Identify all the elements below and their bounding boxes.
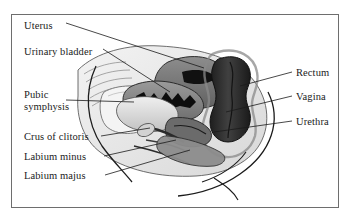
- label-labium-majus: Labium majus: [24, 170, 86, 182]
- rectum: [210, 57, 250, 142]
- label-urethra: Urethra: [296, 116, 329, 128]
- label-labium-minus: Labium minus: [24, 151, 86, 163]
- label-uterus: Uterus: [24, 20, 53, 32]
- label-vagina: Vagina: [296, 91, 326, 103]
- label-pubic-symphysis-line2: symphysis: [24, 101, 69, 113]
- diagram-screenshot: Uterus Urinary bladder Pubic symphysis C…: [0, 0, 352, 223]
- label-urinary-bladder: Urinary bladder: [24, 46, 92, 58]
- label-crus-of-clitoris: Crus of clitoris: [24, 131, 89, 143]
- label-rectum: Rectum: [296, 67, 329, 79]
- label-pubic-symphysis-line1: Pubic: [24, 89, 48, 101]
- thigh-contour: [214, 178, 238, 200]
